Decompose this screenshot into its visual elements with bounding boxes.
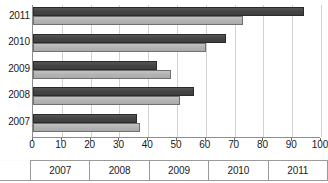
y-axis-label-2010: 2010 <box>0 37 30 47</box>
x-tick-label-70: 70 <box>228 140 239 150</box>
y-axis-label-2008: 2008 <box>0 90 30 100</box>
year-table: 2007 2008 2009 2010 2011 <box>0 160 328 181</box>
x-tick-label-60: 60 <box>199 140 210 150</box>
table-col-2010: 2010 <box>209 161 268 181</box>
bar-2009-series-1-dark <box>33 61 157 70</box>
y-axis-label-2007: 2007 <box>0 117 30 127</box>
plot-area <box>32 5 320 138</box>
x-tick-label-30: 30 <box>113 140 124 150</box>
bar-chart: 2011 2010 2009 2008 2007 010203040506070… <box>0 0 328 152</box>
x-tick-label-80: 80 <box>257 140 268 150</box>
table-row: 2007 2008 2009 2010 2011 <box>0 161 328 181</box>
x-tick-label-50: 50 <box>171 140 182 150</box>
x-tick-label-90: 90 <box>286 140 297 150</box>
x-tick-label-100: 100 <box>312 140 328 150</box>
bar-2007-series-2-light <box>33 123 140 132</box>
bar-2010-series-2-light <box>33 43 206 52</box>
x-tick-label-10: 10 <box>55 140 66 150</box>
x-tick-label-20: 20 <box>84 140 95 150</box>
table-stub-cell <box>0 161 31 181</box>
table-col-2009: 2009 <box>149 161 208 181</box>
table-col-2011: 2011 <box>268 161 327 181</box>
table-col-2008: 2008 <box>90 161 149 181</box>
y-axis-label-2011: 2011 <box>0 11 30 21</box>
bar-2009-series-2-light <box>33 70 171 79</box>
gridline-80 <box>263 5 264 137</box>
bar-2011-series-2-light <box>33 16 243 25</box>
bar-2008-series-1-dark <box>33 87 194 96</box>
bar-2010-series-1-dark <box>33 34 226 43</box>
gridline-100 <box>321 5 322 137</box>
table-col-2007: 2007 <box>31 161 90 181</box>
x-tick-label-40: 40 <box>142 140 153 150</box>
year-table-strip: 2007 2008 2009 2010 2011 <box>0 160 328 183</box>
bar-2007-series-1-dark <box>33 114 137 123</box>
gridline-90 <box>292 5 293 137</box>
y-axis-label-2009: 2009 <box>0 64 30 74</box>
bar-2011-series-1-dark <box>33 7 304 16</box>
x-tick-label-0: 0 <box>29 140 34 150</box>
bar-2008-series-2-light <box>33 96 180 105</box>
